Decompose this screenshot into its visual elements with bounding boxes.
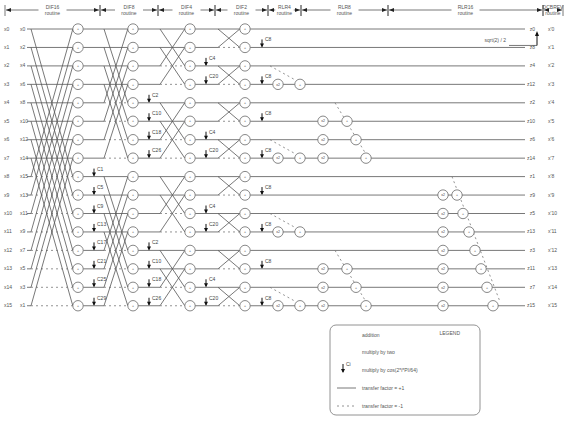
node-symbol: + — [77, 212, 79, 216]
output-x-label: x'7 — [548, 155, 554, 161]
node-symbol: + — [244, 119, 246, 123]
coefficient-label: C29 — [97, 295, 106, 301]
coefficient-label: C8 — [265, 295, 272, 301]
coefficient-label: C20 — [209, 295, 218, 301]
coefficient-label: C1 — [97, 166, 104, 172]
wire-negative — [270, 66, 296, 80]
wire-negative — [270, 214, 296, 228]
coefficient-label: C17 — [97, 239, 106, 245]
output-x-label: x'10 — [548, 210, 557, 216]
node-symbol: + — [244, 230, 246, 234]
node-symbol: + — [132, 83, 134, 87]
node-symbol: + — [244, 46, 246, 50]
node-symbol: + — [77, 101, 79, 105]
output-x-label: x'1 — [548, 44, 554, 50]
node-symbol: + — [244, 101, 246, 105]
arrow-down-icon — [92, 210, 96, 214]
coefficient-label: C10 — [152, 110, 161, 116]
routine-sub: routine — [337, 10, 353, 16]
output-z-label: z5 — [530, 210, 536, 216]
arrow-right-icon — [209, 8, 214, 12]
coefficient-label: C26 — [152, 295, 161, 301]
input-label: x6 — [4, 136, 10, 142]
arrow-left-icon — [159, 8, 164, 12]
node-symbol: + — [132, 193, 134, 197]
permuted-input-label: x3 — [20, 284, 26, 290]
node-symbol: + — [77, 193, 79, 197]
output-z-label: z8 — [530, 44, 536, 50]
node-symbol: x2 — [276, 83, 280, 87]
output-x-label: x'13 — [548, 265, 557, 271]
arrow-down-icon — [204, 283, 208, 287]
node-symbol: x2 — [276, 156, 280, 160]
routine-sub: routine — [179, 10, 195, 16]
arrow-down-icon — [147, 265, 151, 269]
permuted-input-label: x13 — [20, 192, 28, 198]
arrow-right-icon — [94, 8, 99, 12]
coefficient-label: C20 — [209, 73, 218, 79]
node-symbol: + — [486, 286, 488, 290]
node-symbol: + — [77, 64, 79, 68]
coefficient-label: C2 — [152, 92, 159, 98]
node-symbol: + — [244, 249, 246, 253]
arrow-down-icon — [260, 228, 264, 232]
routine-sub: routine — [45, 10, 61, 16]
coefficient-label: C20 — [209, 221, 218, 227]
coefficient-label: C4 — [209, 203, 216, 209]
coefficient-label: C26 — [152, 147, 161, 153]
node-symbol: x2 — [321, 304, 325, 308]
node-symbol: x2 — [276, 304, 280, 308]
dcbrev-note: sqrt(2) / 2 — [485, 37, 507, 43]
node-symbol: + — [132, 138, 134, 142]
arrow-left-icon — [101, 8, 106, 12]
operation-nodes: ++++++++++++++++C1C5C9C13C17C21C25C29+++… — [73, 24, 539, 357]
node-symbol: + — [244, 212, 246, 216]
permuted-input-label: x14 — [20, 155, 28, 161]
node-symbol: + — [244, 267, 246, 271]
coefficient-label: C4 — [209, 129, 216, 135]
node-symbol: + — [189, 156, 191, 160]
arrow-right-icon — [152, 8, 157, 12]
node-symbol: + — [244, 64, 246, 68]
arrow-down-icon — [147, 302, 151, 306]
output-x-label: x'6 — [548, 136, 554, 142]
arrow-down-icon — [204, 80, 208, 84]
routine-sub: routine — [277, 10, 293, 16]
output-z-label: z1 — [530, 173, 536, 179]
node-symbol: + — [244, 175, 246, 179]
node-symbol: + — [365, 156, 367, 160]
output-z-label: z14 — [527, 155, 535, 161]
permuted-input-label: x11 — [20, 210, 28, 216]
coefficient-label: C8 — [265, 36, 272, 42]
node-symbol: + — [132, 212, 134, 216]
node-symbol: x2 — [441, 230, 445, 234]
node-symbol: + — [299, 304, 301, 308]
legend-title: LEGEND — [439, 330, 460, 336]
arrow-down-icon — [260, 80, 264, 84]
node-symbol: + — [462, 212, 464, 216]
arrow-down-icon — [204, 210, 208, 214]
coefficient-label: C8 — [265, 258, 272, 264]
node-symbol: + — [480, 267, 482, 271]
node-symbol: x2 — [441, 249, 445, 253]
node-symbol: + — [132, 286, 134, 290]
node-symbol: + — [189, 101, 191, 105]
arrow-right-icon — [295, 8, 300, 12]
output-x-label: x'3 — [548, 81, 554, 87]
node-symbol: + — [77, 267, 79, 271]
input-label: x0 — [4, 26, 10, 32]
arrow-up-icon — [535, 31, 539, 36]
coefficient-label: C21 — [97, 258, 106, 264]
permuted-input-label: x4 — [20, 62, 26, 68]
node-symbol: x2 — [321, 286, 325, 290]
node-symbol: x2 — [441, 304, 445, 308]
permuted-input-label: x5 — [20, 265, 26, 271]
permuted-input-label: x1 — [20, 302, 26, 308]
output-x-label: x'14 — [548, 284, 557, 290]
arrow-down-icon — [204, 136, 208, 140]
node-symbol: x2 — [321, 267, 325, 271]
output-x-label: x'11 — [548, 228, 557, 234]
node-symbol: + — [299, 83, 301, 87]
output-z-label: z2 — [530, 99, 536, 105]
node-symbol: + — [77, 286, 79, 290]
